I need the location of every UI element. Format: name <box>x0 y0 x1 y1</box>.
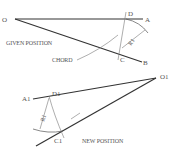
label-b: B <box>143 59 148 67</box>
given-position-caption: GIVEN POSITION <box>6 40 53 46</box>
label-a1: A1 <box>22 95 31 103</box>
angle-transfer-diagram: O D A C B R1 GIVEN POSITION CHORD O1 A1 … <box>0 0 178 154</box>
label-c1: C1 <box>54 137 63 145</box>
radius-r1 <box>122 30 145 48</box>
label-r1-new: R1 <box>39 114 47 123</box>
label-c: C <box>120 56 125 64</box>
given-position: O D A C B R1 GIVEN POSITION CHORD <box>2 10 150 67</box>
chord-label: CHORD <box>52 57 73 63</box>
label-r1: R1 <box>127 37 136 46</box>
arc-r1-new <box>33 129 63 132</box>
new-position-caption: NEW POSITION <box>82 138 124 144</box>
label-d1: D1 <box>52 90 61 98</box>
label-o: O <box>2 16 7 24</box>
radius-r1-new <box>40 98 49 129</box>
label-d: D <box>128 10 133 18</box>
label-o1: O1 <box>160 73 169 81</box>
label-a: A <box>145 16 150 24</box>
new-position: O1 A1 D1 C1 R1 NEW POSITION <box>22 73 169 146</box>
arc-mark <box>71 113 80 119</box>
